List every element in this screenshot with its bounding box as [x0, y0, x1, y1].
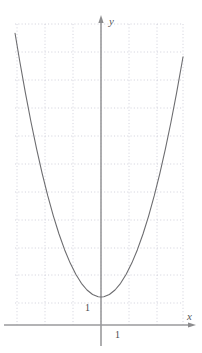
y-axis-arrow-icon [98, 15, 103, 23]
parabola-curve [15, 33, 183, 297]
x-axis-arrow-icon [188, 322, 196, 327]
parabola-figure: y x 1 1 [0, 0, 202, 353]
x-tick-label-one: 1 [115, 330, 120, 340]
curve-path [15, 33, 183, 297]
y-axis-label: y [109, 16, 114, 27]
grid-lines [15, 24, 183, 325]
x-axis-label: x [187, 311, 192, 322]
plot-canvas [0, 0, 202, 353]
x-axis [4, 322, 196, 327]
y-tick-label-one: 1 [85, 303, 90, 313]
